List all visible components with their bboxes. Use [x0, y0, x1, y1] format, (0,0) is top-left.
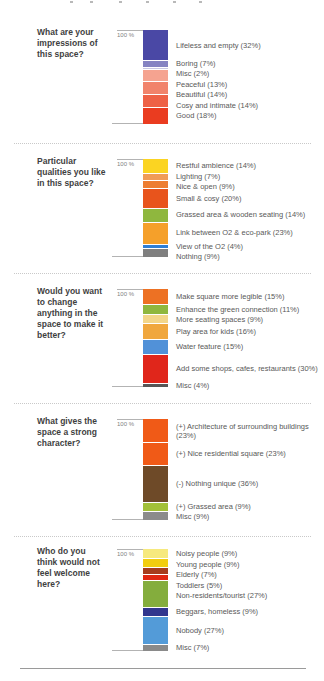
segment-label: Restful ambience (14%)	[176, 161, 318, 170]
axis-baseline-tick	[112, 519, 143, 520]
segment-label: Misc (7%)	[176, 643, 318, 652]
stacked-bar	[143, 159, 168, 257]
segment-label: More seating spaces (9%)	[176, 315, 318, 324]
bar-segment	[143, 383, 168, 387]
segment-labels: Make square more legible (15%)Enhance th…	[176, 289, 318, 399]
survey-chart-section: Would you want to change anything in the…	[0, 289, 324, 399]
stacked-bar	[143, 549, 168, 651]
bar-segment	[143, 323, 168, 339]
cropped-heading-fragment	[0, 0, 324, 4]
segment-label: Nothing (9%)	[176, 252, 318, 261]
segment-label: Water feature (15%)	[176, 342, 318, 351]
axis-100-label: 100 %	[117, 32, 134, 38]
bar-segment	[143, 81, 168, 94]
axis-top-tick	[117, 549, 143, 550]
section-divider	[14, 273, 311, 274]
bar-segment	[143, 419, 168, 442]
bar-segment	[143, 314, 168, 323]
segment-label: Link between O2 & eco-park (23%)	[176, 228, 318, 237]
bar-segment	[143, 502, 168, 511]
axis-baseline-tick	[112, 650, 143, 651]
axis-100-label: 100 %	[117, 421, 134, 427]
section-divider	[14, 403, 311, 404]
segment-label: Beautiful (14%)	[176, 90, 318, 99]
bar-segment	[143, 442, 168, 465]
segment-label: View of the O2 (4%)	[176, 242, 318, 251]
bar-segment	[143, 180, 168, 189]
bar-segment	[143, 159, 168, 173]
question-text: Would you want to change anything in the…	[37, 286, 123, 341]
axis-baseline-tick	[112, 123, 143, 124]
segment-label: Peaceful (13%)	[176, 80, 318, 89]
bar-segment	[143, 248, 168, 257]
survey-chart-section: What gives the space a strong character?…	[0, 419, 324, 532]
bar-segment	[143, 188, 168, 208]
segment-label: Make square more legible (15%)	[176, 292, 318, 301]
bar-segment	[143, 616, 168, 644]
axis-100-label: 100 %	[117, 291, 134, 297]
segment-label: Beggars, homeless (9%)	[176, 607, 318, 616]
survey-chart-section: Particular qualities you like in this sp…	[0, 159, 324, 269]
question-text: Who do you think would not feel welcome …	[37, 546, 123, 590]
segment-labels: Lifeless and empty (32%)Boring (7%)Misc …	[176, 30, 318, 136]
segment-labels: (+) Architecture of surrounding building…	[176, 419, 318, 532]
axis-baseline-tick	[112, 256, 143, 257]
bar-segment	[143, 30, 168, 60]
question-text: What are your impressions of this space?	[37, 27, 123, 60]
segment-label: Misc (4%)	[176, 381, 318, 390]
axis-top-tick	[117, 30, 143, 31]
question-text: Particular qualities you like in this sp…	[37, 156, 123, 189]
segment-label: (+) Architecture of surrounding building…	[176, 422, 318, 440]
segment-label: Good (18%)	[176, 111, 318, 120]
segment-label: Cosy and intimate (14%)	[176, 101, 318, 110]
segment-label: Nobody (27%)	[176, 626, 318, 635]
section-divider	[14, 143, 311, 144]
segment-label: Enhance the green connection (11%)	[176, 305, 318, 314]
segment-label: Small & cosy (20%)	[176, 194, 318, 203]
segment-labels: Noisy people (9%)Young people (9%)Elderl…	[176, 549, 318, 663]
stacked-bar	[143, 419, 168, 520]
segment-label: Lifeless and empty (32%)	[176, 41, 318, 50]
stacked-bar	[143, 30, 168, 124]
axis-top-tick	[117, 289, 143, 290]
bar-segment	[143, 173, 168, 180]
segment-label: Grassed area & wooden seating (14%)	[176, 210, 318, 219]
segment-label: Add some shops, cafes, restaurants (30%)	[176, 364, 318, 373]
survey-results-page: { "page": { "axis_label": "100 %" }, "ch…	[0, 0, 324, 681]
segment-label: (+) Nice residential square (23%)	[176, 449, 318, 458]
bar-segment	[143, 558, 168, 567]
segment-label: Misc (9%)	[176, 512, 318, 521]
question-text: What gives the space a strong character?	[37, 416, 123, 449]
bar-segment	[143, 549, 168, 558]
bar-segment	[143, 354, 168, 383]
segment-label: Non-residents/tourist (27%)	[176, 591, 318, 600]
bar-segment	[143, 208, 168, 222]
segment-label: (-) Nothing unique (36%)	[176, 479, 318, 488]
bar-segment	[143, 107, 168, 124]
bar-segment	[143, 339, 168, 354]
bar-segment	[143, 69, 168, 81]
bar-segment	[143, 465, 168, 501]
axis-100-label: 100 %	[117, 551, 134, 557]
axis-100-label: 100 %	[117, 161, 134, 167]
segment-label: Noisy people (9%)	[176, 549, 318, 558]
segment-label: Play area for kids (16%)	[176, 327, 318, 336]
bar-segment	[143, 567, 168, 574]
bar-segment	[143, 644, 168, 651]
bar-segment	[143, 222, 168, 245]
stacked-bar	[143, 289, 168, 387]
segment-label: Young people (9%)	[176, 560, 318, 569]
page-bottom-rule	[20, 668, 306, 669]
axis-baseline-tick	[112, 386, 143, 387]
bar-segment	[143, 94, 168, 107]
segment-label: Elderly (7%)	[176, 570, 318, 579]
axis-top-tick	[117, 159, 143, 160]
segment-labels: Restful ambience (14%)Lighting (7%)Nice …	[176, 159, 318, 269]
bar-segment	[143, 289, 168, 304]
bar-segment	[143, 607, 168, 616]
segment-label: Toddlers (5%)	[176, 581, 318, 590]
bar-segment	[143, 60, 168, 67]
segment-label: Misc (2%)	[176, 69, 318, 78]
survey-chart-section: What are your impressions of this space?…	[0, 30, 324, 136]
bar-segment	[143, 304, 168, 315]
